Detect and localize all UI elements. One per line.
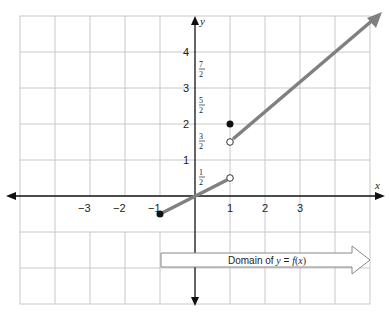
x-axis-right-arrow-icon (375, 192, 385, 200)
isolated-point (227, 121, 234, 128)
y-axis-up-arrow-icon (191, 16, 199, 25)
y-axis-down-arrow-icon (191, 297, 199, 306)
segment-1 (160, 180, 227, 214)
svg-text:5: 5 (199, 96, 203, 105)
y-tick-4: 4 (183, 46, 189, 58)
ray (233, 19, 374, 139)
x-tick-neg3: −3 (78, 202, 91, 214)
closed-point-start (157, 211, 164, 218)
svg-text:2: 2 (199, 178, 203, 187)
open-point-segment-end (227, 175, 234, 182)
x-tick-2: 2 (262, 202, 268, 214)
y-fraction-half: 1 2 (199, 168, 205, 187)
x-tick-3: 3 (297, 202, 303, 214)
svg-text:3: 3 (199, 132, 203, 141)
svg-text:2: 2 (199, 142, 203, 151)
x-axis-label: x (374, 179, 380, 191)
y-tick-1: 1 (183, 154, 189, 166)
y-tick-2: 2 (183, 118, 189, 130)
open-point-ray-start (227, 139, 234, 146)
ray-arrow-icon (367, 12, 382, 28)
svg-text:7: 7 (199, 60, 203, 69)
graph (157, 12, 383, 218)
svg-text:1: 1 (199, 168, 203, 177)
x-axis-left-arrow-icon (6, 192, 16, 200)
y-axis-label: y (199, 15, 205, 27)
y-fraction-seven-halves: 7 2 (199, 60, 205, 79)
y-fraction-five-halves: 5 2 (199, 96, 205, 115)
domain-label: Domain of y = f(x) (228, 255, 306, 267)
svg-text:2: 2 (199, 70, 203, 79)
function-graph: x y −3 −2 −1 1 2 3 1 2 3 4 1 2 3 2 5 2 7… (0, 0, 389, 319)
y-fraction-three-halves: 3 2 (199, 132, 205, 151)
svg-text:2: 2 (199, 106, 203, 115)
y-tick-3: 3 (183, 82, 189, 94)
x-tick-1: 1 (227, 202, 233, 214)
x-tick-neg2: −2 (113, 202, 126, 214)
